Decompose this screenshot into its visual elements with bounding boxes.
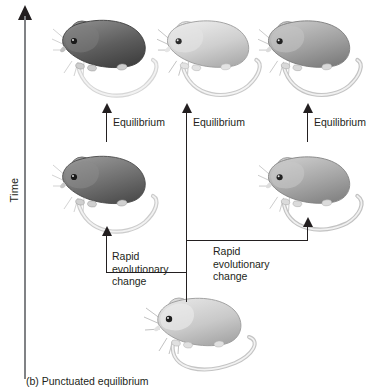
- mouse-ancestral: [143, 283, 273, 379]
- arrow-up-icon-center: [182, 103, 192, 113]
- label-equilibrium-left: Equilibrium: [113, 116, 165, 129]
- label-equilibrium-right: Equilibrium: [314, 116, 366, 129]
- connector-right-upper: [307, 112, 308, 142]
- connector-right-lower: [307, 226, 308, 241]
- mouse-right-middle: [258, 140, 376, 240]
- mouse-left-middle: [52, 140, 172, 240]
- time-axis-label: Time: [8, 165, 20, 215]
- arrow-up-icon-left-upper: [102, 103, 112, 113]
- connector-left-lower: [106, 236, 107, 248]
- figure-caption: (b) Punctuated equilibrium: [26, 375, 149, 387]
- connector-left-trunk: [106, 245, 107, 273]
- arrow-up-icon-right-upper: [303, 103, 313, 113]
- label-rapid-change-right: Rapid evolutionary change: [213, 245, 299, 283]
- connector-left-upper: [106, 112, 107, 142]
- connector-center-upper: [186, 112, 187, 240]
- time-axis-line: [24, 16, 26, 379]
- mouse-left-top: [52, 4, 172, 104]
- arrow-up-icon-left-lower: [102, 226, 112, 236]
- label-rapid-change-left: Rapid evolutionary change: [112, 250, 192, 288]
- mouse-right-top: [258, 4, 376, 104]
- label-equilibrium-middle: Equilibrium: [193, 116, 245, 129]
- connector-right-horizontal: [186, 240, 308, 241]
- punctuated-equilibrium-diagram: Time: [0, 0, 377, 387]
- arrow-up-icon-right-lower: [303, 217, 313, 227]
